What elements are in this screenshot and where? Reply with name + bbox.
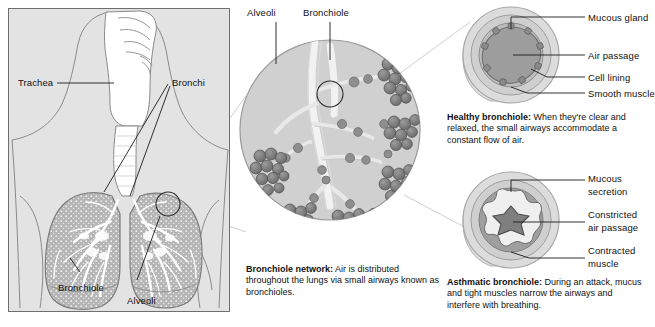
label-bronchiole-left: Bronchiole (58, 282, 104, 293)
caption-title-asthmatic: Asthmatic bronchiole: (447, 277, 542, 287)
caption-healthy-bronchiole: Healthy bronchiole: When they're clear a… (447, 112, 647, 146)
label-constricted-line1: Constricted (588, 209, 637, 220)
caption-body-healthy-1: When they're clear (534, 112, 609, 122)
bronchiole-network-illustration (238, 38, 438, 298)
caption-body-network-1: Air is distributed (335, 264, 399, 274)
healthy-bronchiole-illustration (455, 3, 585, 108)
label-contracted-line1: Contracted (588, 245, 635, 256)
label-cell-lining: Cell lining (588, 72, 630, 83)
label-smooth-muscle: Smooth muscle (588, 88, 655, 99)
caption-title-healthy: Healthy bronchiole: (447, 112, 531, 122)
trachea-shape (114, 126, 138, 196)
caption-body-asthmatic-1: During an attack, (545, 277, 613, 287)
label-alveoli-center: Alveoli (247, 7, 276, 18)
label-mucous-secretion-line2: secretion (588, 186, 627, 197)
label-air-passage: Air passage (588, 50, 639, 61)
caption-title-network: Bronchiole network: (246, 264, 333, 274)
label-mucous-secretion-line1: Mucous (588, 173, 622, 184)
label-alveoli-left: Alveoli (127, 295, 156, 306)
alveoli-cluster-bottom-right (365, 208, 389, 243)
label-bronchiole-center: Bronchiole (303, 7, 349, 18)
caption-asthmatic-bronchiole: Asthmatic bronchiole: During an attack, … (447, 277, 647, 311)
caption-body-network-2: throughout the lungs via small airways (246, 275, 399, 285)
caption-bronchiole-network: Bronchiole network: Air is distributed t… (246, 264, 442, 298)
label-bronchi: Bronchi (172, 77, 205, 88)
alveoli-cluster-bottom-left (280, 203, 316, 240)
torso-illustration (0, 0, 240, 327)
label-mucous-gland: Mucous gland (588, 12, 648, 23)
label-contracted-line2: muscle (588, 258, 619, 269)
label-trachea: Trachea (18, 77, 53, 88)
center-label-leaders (238, 18, 438, 68)
asthmatic-bronchiole-illustration (455, 166, 585, 274)
label-constricted-line2: air passage (588, 222, 638, 233)
alveoli-cluster-bottom-center (329, 209, 364, 245)
alveoli-cluster-left (250, 148, 289, 195)
